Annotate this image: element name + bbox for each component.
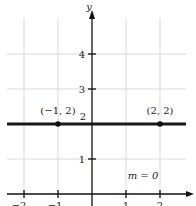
point-neg1-2 — [55, 121, 61, 127]
x-axis: −2 −1 1 2 — [7, 190, 194, 206]
slope-annotation: m = 0 — [128, 170, 159, 181]
y-tick-label: 3 — [79, 84, 85, 95]
point-2-2 — [157, 121, 163, 127]
chart: −2 −1 1 2 y 4 3 2 1 (−1, 2) (2, 2) m = 0 — [0, 0, 196, 206]
x-tick-label: −2 — [12, 200, 27, 206]
x-tick-label: 2 — [157, 200, 163, 206]
y-tick-label: 1 — [79, 154, 85, 165]
x-tick-label: 1 — [123, 200, 129, 206]
point-label-a: (−1, 2) — [40, 105, 75, 116]
y-axis: y 4 3 2 1 — [79, 1, 96, 206]
x-tick-label: −1 — [48, 200, 63, 206]
y-tick-label: 4 — [79, 49, 85, 60]
y-tick-label: 2 — [80, 111, 86, 122]
y-axis-label: y — [85, 1, 92, 12]
x-axis-arrow-icon — [186, 191, 194, 197]
point-label-b: (2, 2) — [147, 105, 174, 116]
